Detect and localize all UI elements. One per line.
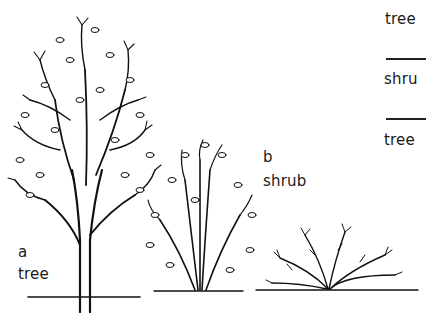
panel-a-letter: a <box>18 245 27 260</box>
low-shrub-drawing <box>256 224 418 290</box>
divider <box>386 118 426 120</box>
shrub-drawing <box>146 140 256 291</box>
side-list-item-2: shru <box>384 72 418 87</box>
side-list-item-1: tree <box>385 12 416 27</box>
panel-b-letter: b <box>263 150 273 165</box>
divider <box>386 58 426 60</box>
side-list-item-3: tree <box>384 133 415 148</box>
plant-forms-illustration <box>0 0 426 313</box>
panel-b-label: shrub <box>263 174 307 189</box>
panel-a-label: tree <box>18 267 49 282</box>
